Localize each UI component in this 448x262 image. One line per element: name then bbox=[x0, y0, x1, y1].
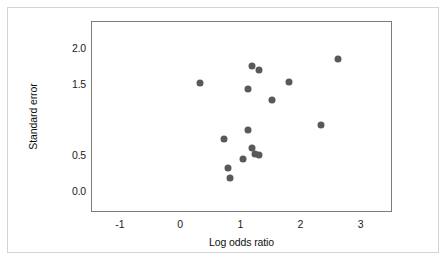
data-point bbox=[244, 127, 251, 134]
data-point bbox=[220, 135, 227, 142]
x-tick-label: 2 bbox=[298, 218, 304, 230]
data-point bbox=[196, 79, 203, 86]
y-tick-label: 0.5 bbox=[72, 149, 86, 161]
x-tick-label: 1 bbox=[237, 218, 243, 230]
x-axis-title: Log odds ratio bbox=[91, 236, 392, 248]
data-point bbox=[334, 56, 341, 63]
y-axis-tick-labels: 0.00.51.52.0 bbox=[58, 21, 86, 212]
y-tick-label: 1.5 bbox=[72, 78, 86, 90]
data-point bbox=[269, 96, 276, 103]
x-tick-label: -1 bbox=[115, 218, 124, 230]
funnel-plot-figure: 0.00.51.52.0 -10123 Standard error Log o… bbox=[0, 0, 448, 262]
y-tick-label: 0.0 bbox=[72, 185, 86, 197]
data-point bbox=[317, 122, 324, 129]
y-tick-label: 2.0 bbox=[72, 42, 86, 54]
data-point bbox=[255, 152, 262, 159]
y-axis-title: Standard error bbox=[26, 21, 40, 212]
data-point bbox=[255, 67, 262, 74]
x-axis-tick-labels: -10123 bbox=[91, 218, 392, 234]
data-point bbox=[240, 155, 247, 162]
scatter-plot-area bbox=[92, 22, 391, 211]
data-point bbox=[244, 85, 251, 92]
data-point bbox=[285, 78, 292, 85]
x-tick-label: 3 bbox=[358, 218, 364, 230]
data-point bbox=[226, 175, 233, 182]
data-point bbox=[225, 165, 232, 172]
plot-frame bbox=[91, 21, 392, 212]
x-tick-label: 0 bbox=[177, 218, 183, 230]
